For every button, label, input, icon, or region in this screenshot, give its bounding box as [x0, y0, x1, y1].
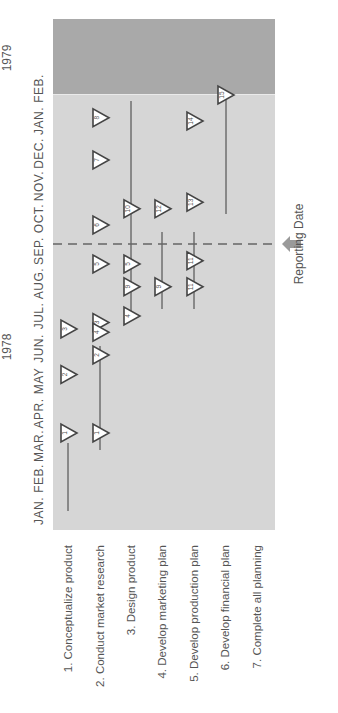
- svg-text:6: 6: [93, 223, 100, 227]
- milestone-layer: 11223344559911116101213781415: [61, 86, 234, 442]
- svg-text:12: 12: [155, 205, 162, 213]
- milestone-triangle-icon: 14: [187, 112, 203, 130]
- milestone-triangle-icon: 9: [124, 278, 140, 296]
- svg-text:9: 9: [155, 285, 162, 289]
- milestone-triangle-icon: 2: [93, 346, 109, 364]
- svg-text:13: 13: [187, 198, 194, 206]
- svg-text:1: 1: [61, 431, 68, 435]
- svg-text:3: 3: [61, 327, 68, 331]
- reporting-date-label: Reporting Date: [292, 204, 306, 285]
- milestone-triangle-icon: 5: [124, 255, 140, 273]
- svg-text:11: 11: [187, 257, 194, 264]
- svg-text:2: 2: [93, 353, 100, 357]
- milestone-triangle-icon: 6: [93, 216, 109, 234]
- milestone-triangle-icon: 10: [124, 200, 140, 218]
- milestone-triangle-icon: 3: [61, 320, 77, 338]
- svg-text:14: 14: [187, 117, 194, 125]
- milestone-triangle-icon: 13: [187, 193, 203, 211]
- svg-text:1: 1: [93, 431, 100, 435]
- svg-text:5: 5: [124, 262, 131, 266]
- milestone-triangle-icon: 7: [93, 151, 109, 169]
- milestone-triangle-icon: 4: [124, 307, 140, 325]
- svg-text:5: 5: [93, 262, 100, 266]
- svg-text:7: 7: [93, 158, 100, 162]
- gantt-chart: 1978 1979 JAN.FEB.MAR.APR.MAYJUN.JUL.AUG…: [0, 0, 338, 713]
- svg-text:8: 8: [93, 116, 100, 120]
- svg-text:4: 4: [124, 314, 131, 318]
- milestone-triangle-icon: 11: [187, 252, 203, 270]
- svg-text:15: 15: [218, 91, 225, 99]
- svg-text:10: 10: [124, 205, 131, 213]
- milestone-triangle-icon: 1: [93, 424, 109, 442]
- svg-text:4: 4: [93, 330, 100, 334]
- svg-text:11: 11: [187, 283, 194, 290]
- svg-text:2: 2: [61, 372, 68, 376]
- milestone-triangle-icon: 9: [155, 278, 171, 296]
- milestone-triangle-icon: 2: [61, 366, 77, 384]
- milestone-triangle-icon: 1: [61, 424, 77, 442]
- milestone-triangle-icon: 12: [155, 200, 171, 218]
- milestone-triangle-icon: 5: [93, 255, 109, 273]
- milestone-triangle-icon: 11: [187, 278, 203, 296]
- svg-text:9: 9: [124, 285, 131, 289]
- chart-drawing: 11223344559911116101213781415: [0, 0, 338, 713]
- milestone-triangle-icon: 8: [93, 109, 109, 127]
- connector-lines: [68, 91, 226, 511]
